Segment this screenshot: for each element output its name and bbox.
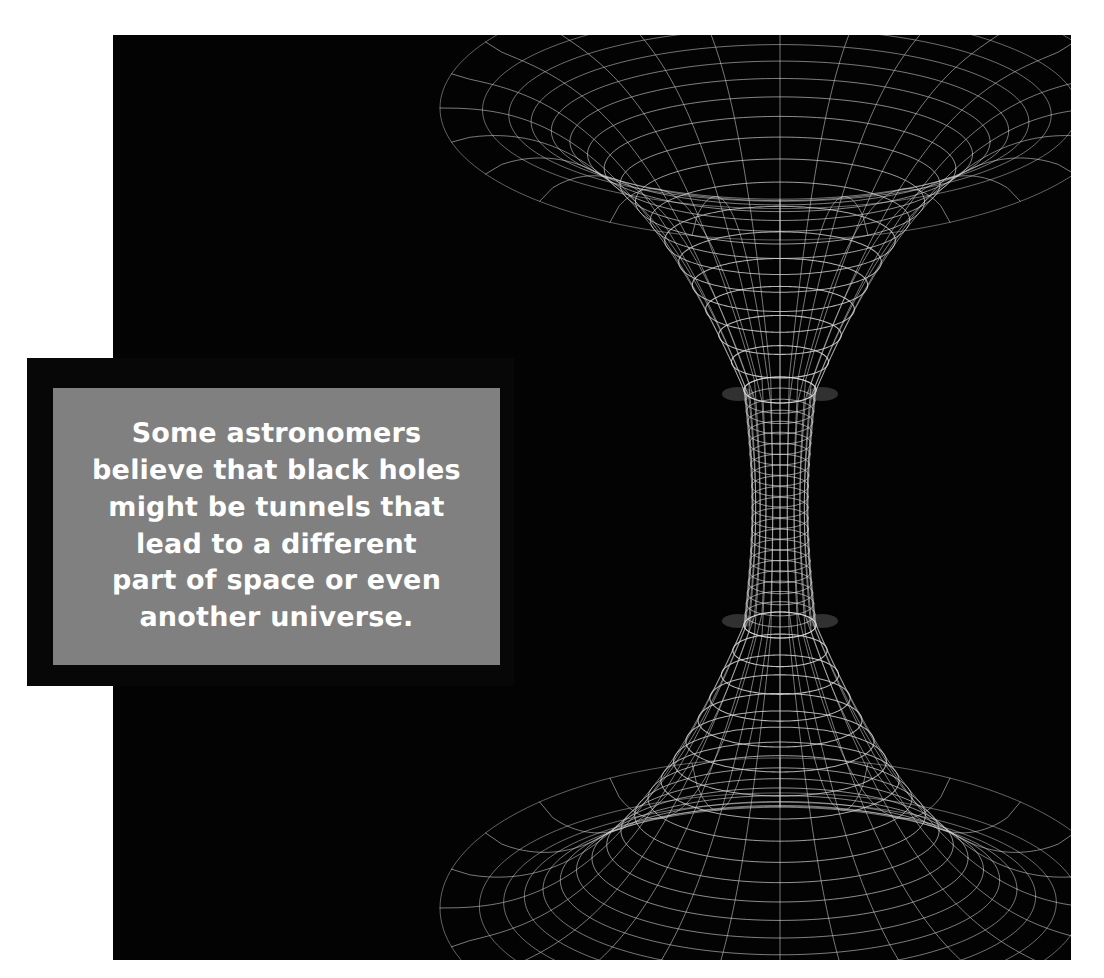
illustration-canvas: Some astronomers believe that black hole… [0, 0, 1104, 978]
caption-text: Some astronomers believe that black hole… [78, 416, 475, 638]
caption-box: Some astronomers believe that black hole… [53, 388, 500, 665]
